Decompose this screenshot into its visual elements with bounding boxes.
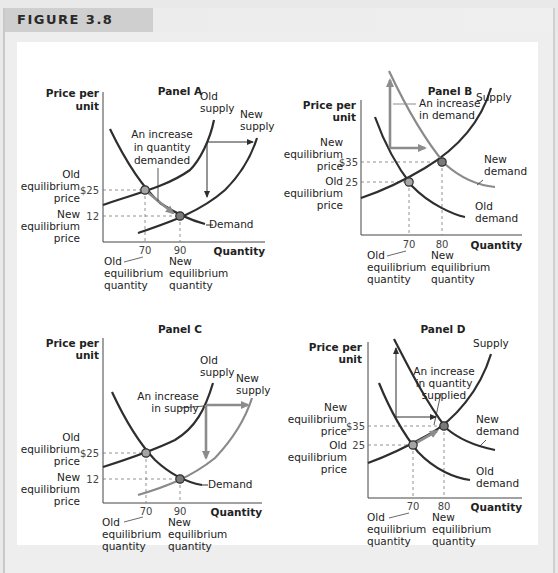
panel-c-old-qty-label-3: quantity xyxy=(102,540,146,552)
panel-d-old-equilibrium-point xyxy=(409,441,417,449)
panel-c-annotation-1: An increase xyxy=(137,390,198,402)
panel-b-new-price-label-1: New xyxy=(320,136,343,148)
panel-c: Panel C Price per unit An increase in su… xyxy=(21,323,271,552)
panel-a-annotation-1: An increase xyxy=(131,128,192,140)
panel-a-annotation-2: in quantity xyxy=(134,141,191,153)
panel-a-old-price-label-2: equilibrium xyxy=(21,180,80,192)
panel-c-new-price-tick: 12 xyxy=(86,474,99,485)
panel-c-new-qty-label-1: New xyxy=(168,516,191,528)
panel-c-new-equilibrium-point xyxy=(176,475,184,483)
panel-a-new-supply-label-1: New xyxy=(240,108,263,120)
panel-c-old-price-label-2: equilibrium xyxy=(21,443,80,455)
panel-d-x-label: Quantity xyxy=(471,501,523,513)
panel-d-old-price-label-2: equilibrium xyxy=(288,451,347,463)
panel-b-new-qty-label-1: New xyxy=(431,249,454,261)
panel-b-x-label: Quantity xyxy=(471,239,523,251)
panel-a-title: Panel A xyxy=(158,85,203,97)
panel-b-old-qty-label-3: quantity xyxy=(367,273,411,285)
panel-d-new-demand-label-1: New xyxy=(476,413,499,425)
panel-b-old-price-label-2: equilibrium xyxy=(284,187,343,199)
panel-b-supply-label: Supply xyxy=(476,91,512,103)
panel-b-new-equilibrium-point xyxy=(438,158,446,166)
panel-a-old-qty-label-1: Old xyxy=(104,255,122,267)
panel-d-new-price-tick: $35 xyxy=(346,421,365,432)
panel-c-old-price-tick: $25 xyxy=(80,448,99,459)
panel-c-new-price-label-2: equilibrium xyxy=(21,483,80,495)
panel-d-new-price-label-3: price xyxy=(321,425,347,437)
panel-b-y-label-2: unit xyxy=(332,111,356,123)
panel-c-new-supply-label-2: supply xyxy=(236,384,271,396)
panel-d-annotation-2: in quantity xyxy=(416,377,473,389)
panel-a-old-qty-tick: 70 xyxy=(139,245,152,256)
panel-c-old-supply-label-2: supply xyxy=(200,366,235,378)
panel-c-old-price-label-1: Old xyxy=(62,431,80,443)
panel-a-new-supply-label-2: supply xyxy=(240,120,275,132)
panel-b-new-price-tick: $35 xyxy=(339,157,358,168)
panel-d-title: Panel D xyxy=(420,323,465,335)
panel-a-annotation-3: demanded xyxy=(134,154,190,166)
panel-a-new-qty-label-2: equilibrium xyxy=(169,267,228,279)
panel-b-new-demand-label-1: New xyxy=(484,153,507,165)
panel-c-new-qty-label-3: quantity xyxy=(168,540,212,552)
panel-b: Panel B Price per unit An increase in de… xyxy=(284,71,527,285)
panel-b-old-demand-label-1: Old xyxy=(475,200,493,212)
panel-d-y-label-2: unit xyxy=(338,353,362,365)
panel-d: Panel D Price per unit An increase in qu… xyxy=(288,323,522,547)
panel-a: Panel A Price per unit An increase in qu… xyxy=(21,85,275,291)
panel-a-old-qty-label-3: quantity xyxy=(104,279,148,291)
panel-a-old-price-label-3: price xyxy=(54,192,80,204)
panel-d-old-price-label-1: Old xyxy=(329,439,347,451)
panel-a-new-equilibrium-point xyxy=(176,212,184,220)
panel-c-title: Panel C xyxy=(158,323,202,335)
panel-c-annotation-2: in supply xyxy=(151,402,199,414)
panel-d-old-price-tick: 25 xyxy=(352,440,365,451)
figure-chart-svg: Panel A Price per unit An increase in qu… xyxy=(0,0,558,573)
panel-a-old-supply-label-2: supply xyxy=(200,102,235,114)
panel-c-old-qty-label-2: equilibrium xyxy=(102,528,161,540)
panel-a-old-supply-label-1: Old xyxy=(200,90,218,102)
panel-d-old-price-label-3: price xyxy=(321,463,347,475)
panel-c-old-qty-label-1: Old xyxy=(102,516,120,528)
panel-c-old-equilibrium-point xyxy=(142,449,150,457)
panel-b-old-qty-label-2: equilibrium xyxy=(367,261,426,273)
panel-b-new-qty-label-3: quantity xyxy=(431,273,475,285)
panel-a-new-price-label-1: New xyxy=(57,208,80,220)
panel-a-y-label-2: unit xyxy=(75,100,99,112)
panel-d-new-qty-label-1: New xyxy=(432,511,455,523)
panel-a-new-price-tick: 12 xyxy=(86,211,99,222)
panel-b-old-price-label-1: Old xyxy=(325,175,343,187)
panel-d-new-qty-label-2: equilibrium xyxy=(432,523,491,535)
panel-c-old-supply-label-1: Old xyxy=(200,354,218,366)
panel-b-annotation-2: in demand xyxy=(419,109,475,121)
panel-a-old-price-tick: $25 xyxy=(80,185,99,196)
panel-c-y-label-1: Price per xyxy=(46,337,100,349)
panel-c-old-qty-tick: 70 xyxy=(140,506,153,517)
panel-a-x-label: Quantity xyxy=(214,245,266,257)
panel-b-new-demand-label-2: demand xyxy=(484,165,527,177)
panel-d-annotation-3: supplied xyxy=(422,389,466,401)
panel-a-old-equilibrium-point xyxy=(141,186,149,194)
panel-b-old-qty-label-1: Old xyxy=(367,249,385,261)
panel-c-x-label: Quantity xyxy=(211,506,263,518)
panel-d-old-demand-label-1: Old xyxy=(476,465,494,477)
panel-a-new-qty-label-1: New xyxy=(169,255,192,267)
panel-b-old-equilibrium-point xyxy=(405,178,413,186)
panel-d-supply-label: Supply xyxy=(473,337,509,349)
panel-a-old-qty-label-2: equilibrium xyxy=(104,267,163,279)
panel-b-old-qty-tick: 70 xyxy=(403,239,416,250)
panel-d-annotation-1: An increase xyxy=(413,365,474,377)
panel-b-old-price-label-3: price xyxy=(317,199,343,211)
panel-c-new-price-label-3: price xyxy=(54,495,80,507)
panel-a-new-price-label-2: equilibrium xyxy=(21,220,80,232)
panel-c-y-label-2: unit xyxy=(75,349,99,361)
panel-d-new-equilibrium-point xyxy=(440,422,448,430)
panel-c-new-price-label-1: New xyxy=(57,471,80,483)
panel-a-old-price-label-1: Old xyxy=(62,168,80,180)
panel-b-old-demand-label-2: demand xyxy=(475,212,518,224)
panel-a-new-price-label-3: price xyxy=(54,232,80,244)
panel-d-old-qty-label-2: equilibrium xyxy=(367,523,426,535)
panel-c-demand-label: Demand xyxy=(208,478,253,490)
panel-d-new-price-label-1: New xyxy=(324,401,347,413)
panel-a-new-qty-label-3: quantity xyxy=(169,279,213,291)
panel-d-old-qty-label-1: Old xyxy=(367,511,385,523)
